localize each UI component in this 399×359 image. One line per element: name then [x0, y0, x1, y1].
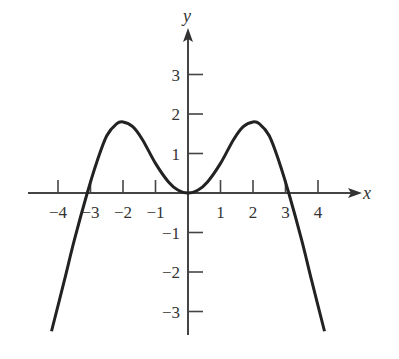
- x-tick-label: −1: [146, 203, 164, 222]
- y-tick-label: 1: [172, 145, 181, 164]
- y-tick-label: −2: [162, 263, 180, 282]
- x-tick-label: 4: [314, 203, 323, 222]
- y-tick-label: 3: [172, 66, 181, 85]
- y-tick-label: 2: [172, 105, 181, 124]
- x-tick-label: 3: [281, 203, 290, 222]
- function-graph: −4−3−2−11234−3−2−1123 x y: [0, 0, 399, 359]
- y-tick-label: −1: [162, 224, 180, 243]
- x-tick-label: 2: [249, 203, 258, 222]
- y-axis-label: y: [181, 6, 191, 26]
- y-tick-label: −3: [162, 303, 180, 322]
- x-tick-label: −2: [114, 203, 132, 222]
- x-axis-label: x: [362, 183, 371, 203]
- x-tick-label: 1: [216, 203, 225, 222]
- x-tick-label: −4: [49, 203, 68, 222]
